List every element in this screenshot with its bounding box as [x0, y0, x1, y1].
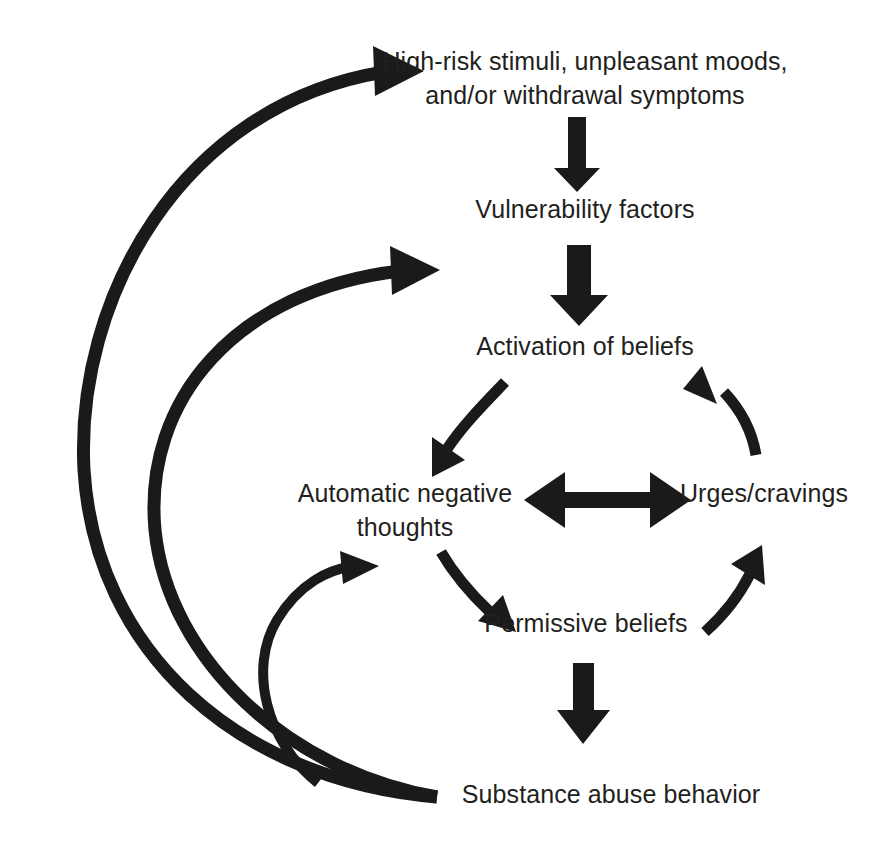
node-label-automatic-negative-thoughts-line1: Automatic negative — [298, 479, 512, 507]
node-high-risk-stimuli: High-risk stimuli, unpleasant moods, and… — [382, 47, 787, 109]
edge-substance-abuse-to-thoughts — [263, 551, 379, 783]
node-label-automatic-negative-thoughts-line2: thoughts — [357, 513, 454, 541]
edge-permissive-to-substance-abuse — [557, 663, 610, 744]
node-label-vulnerability-factors: Vulnerability factors — [475, 195, 694, 223]
node-label-permissive-beliefs: Permissive beliefs — [484, 609, 687, 637]
node-label-urges-cravings: Urges/cravings — [680, 479, 848, 507]
node-label-substance-abuse-behavior: Substance abuse behavior — [462, 780, 760, 808]
node-permissive-beliefs: Permissive beliefs — [484, 609, 687, 637]
edge-vulnerability-to-activation — [550, 245, 608, 326]
edge-stimuli-to-vulnerability — [554, 117, 600, 192]
edge-permissive-to-urges — [705, 545, 765, 632]
node-activation-of-beliefs: Activation of beliefs — [476, 332, 694, 360]
cognitive-model-diagram: High-risk stimuli, unpleasant moods, and… — [0, 0, 884, 853]
diagram-canvas: High-risk stimuli, unpleasant moods, and… — [0, 0, 884, 853]
node-urges-cravings: Urges/cravings — [680, 479, 848, 507]
node-substance-abuse-behavior: Substance abuse behavior — [462, 780, 760, 808]
edge-urges-to-activation — [683, 366, 756, 455]
edge-thoughts-to-urges — [524, 472, 691, 528]
edge-activation-to-thoughts — [432, 382, 505, 477]
node-label-high-risk-stimuli-line1: High-risk stimuli, unpleasant moods, — [382, 47, 787, 75]
node-label-high-risk-stimuli-line2: and/or withdrawal symptoms — [425, 81, 744, 109]
node-vulnerability-factors: Vulnerability factors — [475, 195, 694, 223]
node-automatic-negative-thoughts: Automatic negative thoughts — [298, 479, 512, 541]
node-label-activation-of-beliefs: Activation of beliefs — [476, 332, 694, 360]
